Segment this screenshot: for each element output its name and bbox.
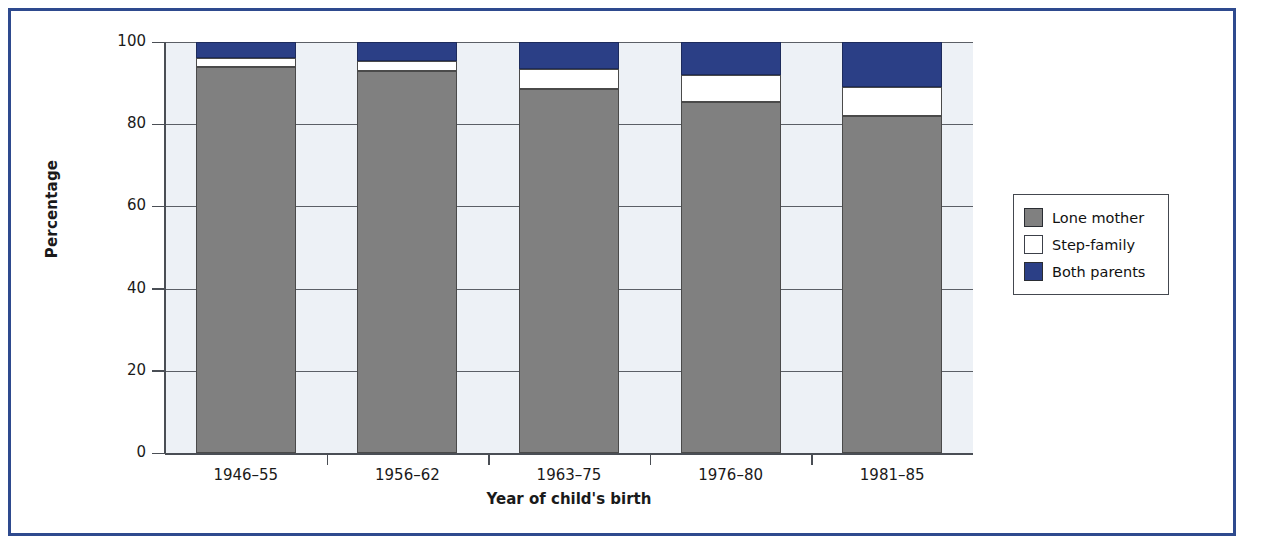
legend-label: Both parents [1052,264,1145,280]
y-tick-mark-100 [152,42,164,44]
x-tick-mark [811,454,813,465]
x-tick-mark [650,454,652,465]
x-tick-label: 1976–80 [646,466,816,484]
y-tick-label-80: 80 [86,114,146,132]
legend-item: Step-family [1024,231,1158,258]
x-tick-mark [488,454,490,465]
bar-group [196,42,296,453]
bar-group [519,42,619,453]
bar-group [681,42,781,453]
bar-chart-figure: Percentage 020406080100 1946–551956–6219… [0,0,1264,553]
legend-label: Lone mother [1052,210,1144,226]
bar-segment [681,75,781,102]
x-tick-label: 1946–55 [161,466,331,484]
y-tick-mark-60 [152,206,164,208]
y-tick-mark-80 [152,124,164,126]
legend-swatch-lone-mother [1024,208,1043,227]
bar-segment [681,102,781,453]
bar-segment [357,71,457,453]
legend-item: Both parents [1024,258,1158,285]
legend-swatch-step-family [1024,235,1043,254]
legend-label: Step-family [1052,237,1135,253]
x-axis-title: Year of child's birth [165,490,973,508]
y-axis-title: Percentage [43,139,61,279]
bar-segment [196,42,296,58]
y-tick-mark-0 [152,453,164,455]
screenshot-page: Percentage 020406080100 1946–551956–6219… [0,0,1264,553]
bar-segment [842,87,942,116]
legend-swatch-both-parents [1024,262,1043,281]
bar-segment [196,67,296,453]
legend-item: Lone mother [1024,204,1158,231]
y-tick-label-40: 40 [86,279,146,297]
y-tick-mark-40 [152,288,164,290]
bar-group [842,42,942,453]
bar-segment [842,116,942,453]
bar-group [357,42,457,453]
bar-segment [519,69,619,90]
x-tick-mark [327,454,329,465]
y-tick-label-100: 100 [86,32,146,50]
bar-segment [681,42,781,75]
bar-segment [196,58,296,66]
y-axis-line [164,42,166,454]
x-tick-label: 1981–85 [807,466,977,484]
chart-legend: Lone motherStep-familyBoth parents [1013,194,1169,295]
y-tick-mark-20 [152,370,164,372]
bar-segment [357,42,457,60]
bar-segment [519,42,619,69]
bar-segment [519,89,619,453]
y-tick-label-0: 0 [86,443,146,461]
x-tick-label: 1963–75 [484,466,654,484]
x-axis-line [165,453,973,455]
bar-segment [357,61,457,71]
plot-area [165,42,973,453]
x-tick-label: 1956–62 [322,466,492,484]
y-tick-label-60: 60 [86,196,146,214]
y-tick-label-20: 20 [86,361,146,379]
bar-segment [842,42,942,87]
